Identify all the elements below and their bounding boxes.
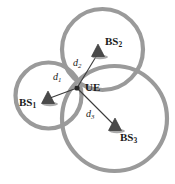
label-d3: d3 xyxy=(86,109,94,121)
label-bs3-text: BS xyxy=(120,131,133,143)
label-ue: UE xyxy=(85,82,100,93)
coverage-circle-bs2 xyxy=(62,9,143,90)
label-d3-subscript: 3 xyxy=(91,113,94,120)
label-bs1-text: BS xyxy=(19,96,32,108)
bs2-antenna-icon xyxy=(92,44,105,57)
label-d1: d1 xyxy=(53,72,61,84)
label-bs1: BS1 xyxy=(19,97,36,110)
base-station-marker-bs1 xyxy=(42,91,59,106)
network-topology-figure: BS1 BS2 BS3 UE d1 d2 d3 xyxy=(0,0,175,184)
label-bs2: BS2 xyxy=(105,36,122,49)
ue-node-dot xyxy=(74,85,79,90)
bs3-antenna-icon xyxy=(109,118,122,131)
label-d2-subscript: 2 xyxy=(78,62,81,69)
label-d2: d2 xyxy=(73,58,81,70)
distance-line-d1 xyxy=(50,88,77,98)
label-bs3: BS3 xyxy=(120,132,137,145)
label-d1-subscript: 1 xyxy=(58,76,61,83)
label-bs2-text: BS xyxy=(105,35,118,47)
label-bs1-subscript: 1 xyxy=(32,101,36,110)
distance-line-d3 xyxy=(77,88,114,125)
label-bs2-subscript: 2 xyxy=(118,40,122,49)
label-bs3-subscript: 3 xyxy=(133,136,137,145)
